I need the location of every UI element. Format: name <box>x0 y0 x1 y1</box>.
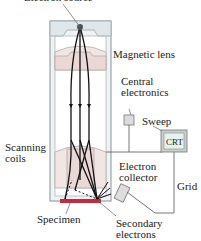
grid-label: Grid <box>177 181 197 192</box>
secondary-electrons-label-2: electrons <box>116 229 156 240</box>
magnetic-lens-label: Magnetic lens <box>113 49 175 60</box>
specimen-label: Specimen <box>37 214 80 225</box>
electron-collector-label-2: collector <box>119 172 157 183</box>
central-electronics-box <box>124 115 134 125</box>
electron-source-label: Electron source <box>24 0 93 3</box>
central-electronics-label-2: electronics <box>121 87 169 98</box>
electron-collector <box>114 184 130 203</box>
crt-label: CRT <box>166 137 183 148</box>
sweep-label: Sweep <box>142 116 171 127</box>
scanning-coils-label-2: coils <box>5 153 26 164</box>
specimen-plate <box>60 199 101 203</box>
